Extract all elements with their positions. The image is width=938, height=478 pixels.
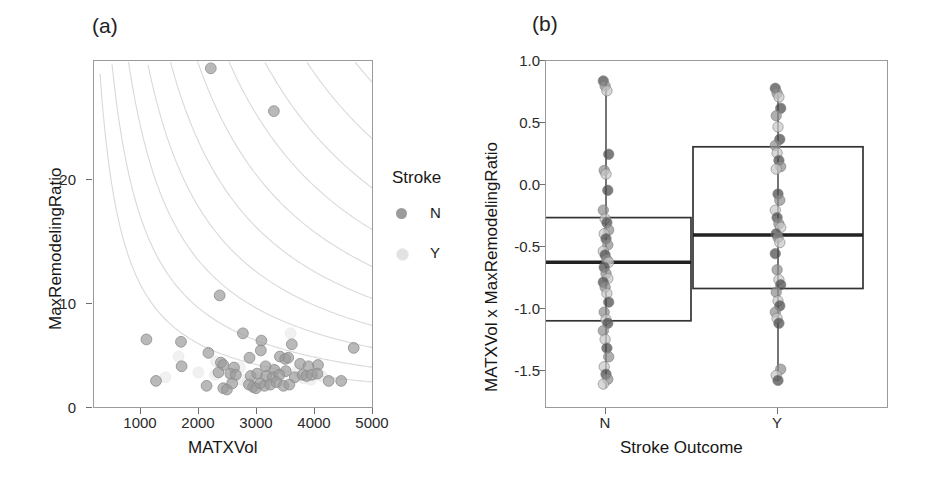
panel-a-xtick-2000: 2000	[172, 414, 224, 431]
box-point-Y-13	[775, 195, 785, 205]
boxplot-N	[545, 76, 691, 390]
panel-b-ytick-0.0: 0.0	[494, 176, 540, 193]
scatter-point-N-53	[284, 379, 295, 390]
scatter-point-N-9	[203, 347, 214, 358]
scatter-point-Y-8	[285, 328, 296, 339]
panel-a-xtick-mark-5000	[372, 408, 373, 414]
contour-line-3	[148, 65, 373, 326]
box-point-N-31	[604, 352, 614, 362]
box-point-N-3	[604, 149, 614, 159]
scatter-point-N-14	[283, 352, 294, 363]
contour-line-9	[355, 62, 373, 83]
scatter-point-N-5	[141, 334, 152, 345]
box-rect-N	[545, 218, 691, 321]
panel-a-xtick-1000: 1000	[114, 414, 166, 431]
contour-line-1	[112, 64, 373, 367]
box-point-Y-4	[771, 111, 781, 121]
panel-a-ytick-mark-20	[86, 179, 92, 180]
panel-a: (a) MaxRemodelingRatio MATXVol 0 10 20 1…	[0, 0, 500, 478]
panel-a-ytick-10: 10	[46, 295, 76, 312]
panel-a-x-axis-title: MATXVol	[188, 438, 258, 458]
panel-b-boxplot-canvas	[546, 61, 888, 408]
contour-line-5	[198, 61, 374, 267]
contour-line-0	[100, 74, 373, 382]
box-point-Y-11	[771, 164, 781, 174]
scatter-point-N-4	[256, 335, 267, 346]
scatter-point-N-38	[323, 376, 334, 387]
panel-b-xtick-y: Y	[759, 414, 795, 431]
scatter-point-N-8	[348, 343, 359, 354]
legend-title: Stroke	[392, 168, 441, 188]
panel-b-plot-area	[545, 60, 888, 408]
figure-root: (a) MaxRemodelingRatio MATXVol 0 10 20 1…	[0, 0, 938, 478]
panel-b: (b) MATXVol x MaxRemodelingRatio Stroke …	[460, 0, 938, 478]
scatter-point-N-37	[312, 368, 323, 379]
panel-a-ytick-mark-10	[86, 303, 92, 304]
scatter-point-N-41	[201, 380, 212, 391]
scatter-point-N-7	[286, 339, 297, 350]
panel-b-tag: (b)	[532, 12, 558, 36]
panel-a-plot-area	[93, 60, 373, 408]
scatter-point-N-3	[238, 328, 249, 339]
box-point-Y-2	[774, 92, 784, 102]
box-point-N-35	[598, 379, 608, 389]
panel-a-xtick-mark-3000	[256, 408, 257, 414]
box-point-N-24	[604, 297, 614, 307]
scatter-point-N-15	[176, 361, 187, 372]
box-point-Y-33	[773, 375, 783, 385]
legend-swatch-y	[396, 248, 409, 261]
box-point-N-2	[602, 86, 612, 96]
legend-label-n: N	[430, 204, 441, 221]
panel-a-scatter-canvas	[94, 61, 373, 408]
boxplot-Y	[693, 83, 863, 385]
scatter-point-N-12	[244, 352, 255, 363]
scatter-point-N-0	[205, 63, 216, 74]
panel-b-xtick-n: N	[587, 414, 623, 431]
box-point-Y-30	[774, 318, 784, 328]
scatter-point-N-6	[176, 336, 187, 347]
scatter-point-Y-10	[173, 351, 184, 362]
scatter-point-N-39	[336, 376, 347, 387]
scatter-point-N-1	[269, 106, 280, 117]
panel-a-xtick-mark-4000	[314, 408, 315, 414]
panel-a-ytick-mark-0	[86, 407, 92, 408]
scatter-series-N	[141, 63, 359, 395]
scatter-point-Y-11	[193, 367, 204, 378]
contour-line-6	[229, 62, 373, 231]
panel-b-ytick--0.5: -0.5	[494, 238, 540, 255]
panel-a-xtick-4000: 4000	[288, 414, 340, 431]
panel-a-xtick-mark-1000	[140, 408, 141, 414]
panel-b-ytick-1.0: 1.0	[494, 52, 540, 69]
panel-a-xtick-3000: 3000	[230, 414, 282, 431]
box-point-N-6	[603, 185, 613, 195]
panel-b-ytick-0.5: 0.5	[494, 114, 540, 131]
scatter-point-N-25	[213, 367, 224, 378]
panel-a-ytick-0: 0	[46, 399, 76, 416]
panel-a-ytick-20: 20	[46, 171, 76, 188]
box-point-Y-22	[772, 265, 782, 275]
panel-a-xtick-5000: 5000	[346, 414, 398, 431]
contour-line-7	[265, 62, 373, 188]
contour-line-8	[307, 62, 373, 139]
panel-b-xtick-mark-y	[777, 408, 778, 414]
box-point-Y-5	[773, 122, 783, 132]
scatter-point-N-44	[227, 378, 238, 389]
panel-b-x-axis-title: Stroke Outcome	[620, 438, 743, 458]
legend-swatch-n	[396, 208, 407, 219]
scatter-point-N-10	[255, 345, 266, 356]
panel-a-tag: (a)	[92, 14, 118, 38]
contour-group	[100, 61, 373, 382]
panel-a-xtick-mark-2000	[198, 408, 199, 414]
panel-b-ytick--1.0: -1.0	[494, 300, 540, 317]
panel-b-xtick-mark-n	[605, 408, 606, 414]
box-point-Y-21	[770, 248, 780, 258]
panel-b-ytick--1.5: -1.5	[494, 362, 540, 379]
box-point-Y-20	[775, 237, 785, 247]
box-point-N-5	[601, 169, 611, 179]
scatter-point-N-2	[214, 290, 225, 301]
legend-label-y: Y	[430, 244, 440, 261]
scatter-point-N-40	[151, 376, 162, 387]
